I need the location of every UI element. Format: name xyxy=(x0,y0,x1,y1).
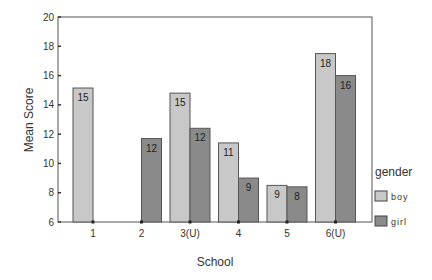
x-tick-label: 2 xyxy=(139,228,145,239)
x-tick xyxy=(334,221,337,224)
y-tick-label: 16 xyxy=(43,70,55,81)
data-label: 12 xyxy=(146,143,158,154)
legend-swatch-girl xyxy=(375,216,387,226)
x-tick xyxy=(140,221,143,224)
data-label: 16 xyxy=(340,80,352,91)
x-tick-label: 4 xyxy=(236,228,242,239)
data-label: 15 xyxy=(174,97,186,108)
legend-swatch-boy xyxy=(375,191,387,201)
data-label: 11 xyxy=(223,147,234,158)
x-tick xyxy=(286,221,289,224)
y-tick-label: 20 xyxy=(43,12,55,23)
data-label: 18 xyxy=(320,58,332,69)
y-tick-label: 14 xyxy=(43,99,55,110)
x-tick xyxy=(237,221,240,224)
data-label: 12 xyxy=(194,132,206,143)
bar-boy-1 xyxy=(73,88,93,222)
data-label: 15 xyxy=(77,92,89,103)
y-tick-label: 10 xyxy=(43,158,55,169)
plot-area: 6810121416182015112215123(U)119498518166… xyxy=(43,12,372,240)
y-tick-label: 18 xyxy=(43,41,55,52)
legend-title: gender xyxy=(375,165,412,179)
y-tick-label: 6 xyxy=(48,217,54,228)
legend-label-girl: girl xyxy=(391,217,407,227)
bar-boy-3(U) xyxy=(170,93,190,222)
x-tick xyxy=(92,221,95,224)
y-tick-label: 12 xyxy=(43,129,55,140)
legend-label-boy: boy xyxy=(391,192,409,202)
data-label: 9 xyxy=(246,182,252,193)
x-tick-label: 1 xyxy=(90,228,96,239)
x-tick xyxy=(189,221,192,224)
x-axis-title: School xyxy=(197,255,234,269)
legend: boygirl xyxy=(375,191,409,227)
bar-boy-6(U) xyxy=(316,54,336,222)
x-tick-label: 6(U) xyxy=(326,228,345,239)
data-label: 9 xyxy=(274,189,280,200)
data-label: 8 xyxy=(294,191,300,202)
x-tick-label: 5 xyxy=(284,228,290,239)
bar-girl-6(U) xyxy=(336,76,356,222)
bar-chart: 6810121416182015112215123(U)119498518166… xyxy=(0,0,432,280)
y-tick-label: 8 xyxy=(48,187,54,198)
x-tick-label: 3(U) xyxy=(180,228,199,239)
y-axis-title: Mean Score xyxy=(22,87,36,152)
